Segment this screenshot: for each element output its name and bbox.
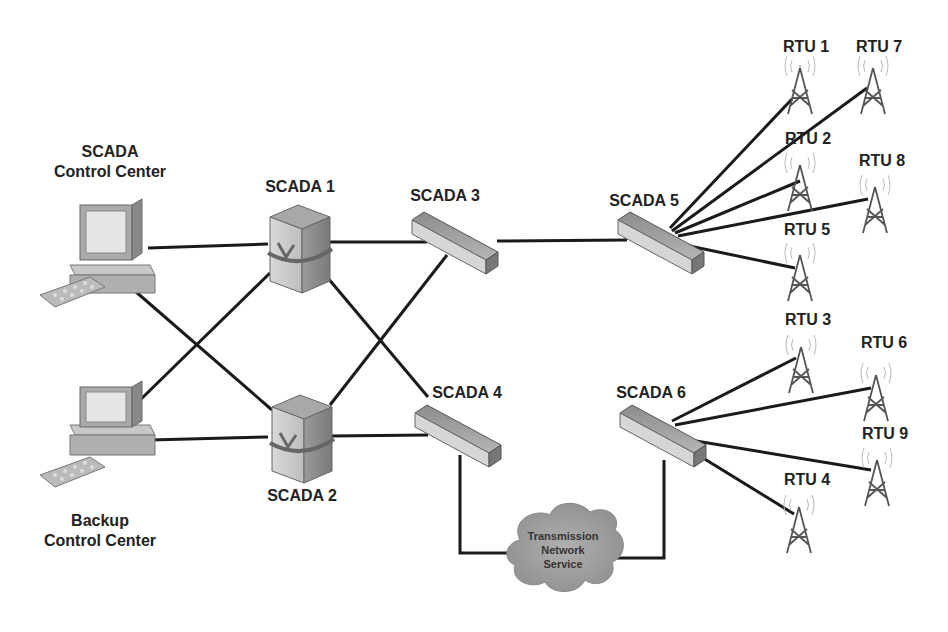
server-icon-scada2[interactable]	[270, 395, 334, 483]
label-rtu1: RTU 1	[783, 38, 829, 56]
label-cloud-line2: Network	[541, 544, 584, 557]
switch-icon-scada5[interactable]	[618, 212, 704, 274]
label-scada1: SCADA 1	[265, 178, 335, 196]
computer-icon-backup[interactable]	[40, 381, 155, 487]
tower-icon-rtu1[interactable]	[785, 56, 815, 114]
label-backup-line2: Control Center	[44, 532, 156, 550]
computer-icon-primary[interactable]	[40, 199, 155, 307]
label-cloud-line3: Service	[543, 558, 582, 571]
label-scada6: SCADA 6	[616, 384, 686, 402]
tower-icon-rtu8[interactable]	[860, 175, 890, 233]
label-scada3: SCADA 3	[410, 187, 480, 205]
switch-icon-scada6[interactable]	[620, 405, 706, 467]
scada-network-diagram: SCADA Control Center Backup Control Cent…	[0, 0, 948, 632]
tower-icon-rtu4[interactable]	[784, 495, 814, 553]
label-rtu7: RTU 7	[856, 38, 902, 56]
label-primary-line1: SCADA	[82, 143, 139, 161]
label-rtu4: RTU 4	[784, 471, 830, 489]
label-backup-line1: Backup	[71, 512, 129, 530]
tower-icon-rtu3[interactable]	[786, 335, 816, 393]
label-scada5: SCADA 5	[609, 192, 679, 210]
label-scada2: SCADA 2	[267, 487, 337, 505]
tower-icon-rtu9[interactable]	[862, 448, 892, 506]
tower-icon-rtu5[interactable]	[785, 243, 815, 301]
label-rtu8: RTU 8	[859, 152, 905, 170]
label-cloud-line1: Transmission	[528, 530, 599, 543]
tower-icon-rtu6[interactable]	[861, 363, 891, 421]
label-rtu9: RTU 9	[862, 425, 908, 443]
label-scada4: SCADA 4	[432, 384, 502, 402]
tower-icon-rtu7[interactable]	[858, 56, 888, 114]
label-rtu5: RTU 5	[784, 221, 830, 239]
connection-lines	[120, 88, 871, 558]
label-primary-line2: Control Center	[54, 163, 166, 181]
label-rtu6: RTU 6	[861, 334, 907, 352]
server-icon-scada1[interactable]	[268, 205, 332, 293]
label-rtu2: RTU 2	[785, 130, 831, 148]
label-rtu3: RTU 3	[785, 311, 831, 329]
